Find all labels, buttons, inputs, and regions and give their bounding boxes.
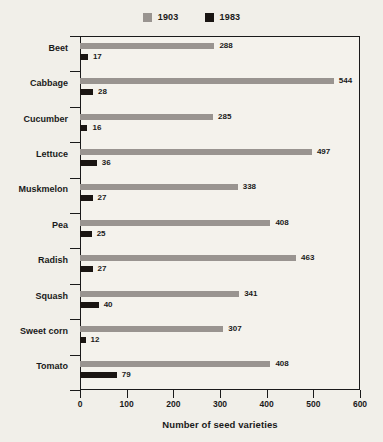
bar-1903-tomato — [80, 361, 270, 367]
bar-value-label: 463 — [301, 254, 314, 262]
bar-1903-cabbage — [80, 78, 334, 84]
bar-value-label: 408 — [275, 360, 288, 368]
bar-1903-pea — [80, 220, 270, 226]
y-axis-label: Sweet corn — [0, 327, 68, 336]
seed-varieties-bar-chart: 1903 1983 BeetCabbageCucumberLettuceMusk… — [0, 0, 383, 442]
bar-value-label: 12 — [91, 336, 100, 344]
bar-1903-muskmelon — [80, 184, 238, 190]
x-axis-tick — [360, 390, 361, 398]
y-axis-tick — [70, 142, 80, 143]
bar-1983-muskmelon — [80, 195, 93, 201]
x-axis-tick — [220, 390, 221, 398]
bar-value-label: 27 — [98, 194, 107, 202]
x-axis-tick — [267, 390, 268, 398]
bar-value-label: 285 — [218, 113, 231, 121]
bar-1983-squash — [80, 302, 99, 308]
y-axis-label: Pea — [0, 221, 68, 230]
y-axis-label: Squash — [0, 292, 68, 301]
bar-value-label: 307 — [228, 325, 241, 333]
y-axis-label: Cucumber — [0, 115, 68, 124]
bar-row: 36 — [80, 160, 111, 166]
bar-value-label: 36 — [102, 159, 111, 167]
x-axis-tick-label: 600 — [353, 400, 367, 409]
bars-layer: 2881754428285164973633827408254632734140… — [80, 36, 360, 390]
bar-row: 341 — [80, 291, 257, 297]
y-axis-label: Cabbage — [0, 79, 68, 88]
y-axis-tick — [70, 213, 80, 214]
bar-row: 17 — [80, 54, 102, 60]
y-axis-label: Lettuce — [0, 150, 68, 159]
legend-entry-1983: 1983 — [205, 13, 241, 22]
bar-value-label: 79 — [122, 371, 131, 379]
bar-row: 27 — [80, 266, 107, 272]
bar-value-label: 544 — [339, 77, 352, 85]
y-axis-label: Muskmelon — [0, 185, 68, 194]
bar-row: 544 — [80, 78, 352, 84]
y-axis-tick — [70, 107, 80, 108]
bar-1983-radish — [80, 266, 93, 272]
bar-1903-squash — [80, 291, 239, 297]
y-axis-tick — [70, 36, 80, 37]
y-axis-label: Beet — [0, 44, 68, 53]
bar-value-label: 40 — [104, 301, 113, 309]
y-axis-tick — [70, 355, 80, 356]
bar-value-label: 16 — [92, 124, 101, 132]
legend-label-1983: 1983 — [220, 13, 241, 22]
bar-1983-cabbage — [80, 89, 93, 95]
bar-1903-lettuce — [80, 149, 312, 155]
bar-1983-cucumber — [80, 125, 87, 131]
bar-row: 497 — [80, 149, 330, 155]
bar-row: 79 — [80, 372, 131, 378]
bar-value-label: 341 — [244, 290, 257, 298]
bar-value-label: 25 — [97, 230, 106, 238]
bar-row: 285 — [80, 114, 231, 120]
bar-row: 463 — [80, 255, 314, 261]
bar-row: 408 — [80, 220, 289, 226]
bar-row: 408 — [80, 361, 289, 367]
bar-value-label: 17 — [93, 53, 102, 61]
x-axis-tick-label: 300 — [213, 400, 227, 409]
bar-row: 40 — [80, 302, 113, 308]
bar-1983-lettuce — [80, 160, 97, 166]
bar-1903-cucumber — [80, 114, 213, 120]
bar-row: 12 — [80, 337, 100, 343]
bar-row: 28 — [80, 89, 107, 95]
bar-row: 288 — [80, 43, 233, 49]
legend-label-1903: 1903 — [158, 13, 179, 22]
bar-value-label: 408 — [275, 219, 288, 227]
x-axis-tick — [173, 390, 174, 398]
x-axis-tick-label: 0 — [78, 400, 83, 409]
bar-1983-beet — [80, 54, 88, 60]
bar-1983-sweet-corn — [80, 337, 86, 343]
bar-value-label: 288 — [219, 42, 232, 50]
x-axis-tick-label: 200 — [166, 400, 180, 409]
bar-value-label: 338 — [243, 183, 256, 191]
x-axis-tick — [313, 390, 314, 398]
bar-1903-radish — [80, 255, 296, 261]
bar-value-label: 27 — [98, 265, 107, 273]
y-axis-label: Radish — [0, 256, 68, 265]
y-axis-tick — [70, 390, 80, 391]
x-axis-tick — [127, 390, 128, 398]
bar-1983-tomato — [80, 372, 117, 378]
legend-swatch-1903 — [143, 13, 152, 22]
bar-value-label: 497 — [317, 148, 330, 156]
bar-row: 25 — [80, 231, 106, 237]
x-axis-tick-label: 500 — [306, 400, 320, 409]
bar-row: 27 — [80, 195, 107, 201]
y-axis-tick — [70, 284, 80, 285]
bar-1903-sweet-corn — [80, 326, 223, 332]
chart-legend: 1903 1983 — [0, 13, 383, 22]
bar-row: 307 — [80, 326, 242, 332]
bar-value-label: 28 — [98, 88, 107, 96]
bar-row: 338 — [80, 184, 256, 190]
bar-1903-beet — [80, 43, 214, 49]
y-axis-label: Tomato — [0, 362, 68, 371]
y-axis-tick — [70, 178, 80, 179]
y-axis-tick — [70, 319, 80, 320]
x-axis-title: Number of seed varieties — [80, 419, 360, 430]
legend-entry-1903: 1903 — [143, 13, 179, 22]
legend-swatch-1983 — [205, 13, 214, 22]
bar-1983-pea — [80, 231, 92, 237]
y-axis-tick — [70, 248, 80, 249]
